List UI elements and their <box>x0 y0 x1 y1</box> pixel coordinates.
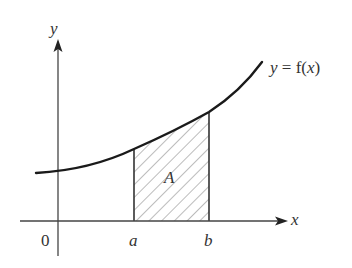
bound-label-b: b <box>204 231 213 250</box>
curve-label-eq: = f( <box>278 58 308 77</box>
origin-label: 0 <box>41 231 50 250</box>
region-label: A <box>163 168 175 187</box>
curve-label: y = f(x) <box>268 58 320 77</box>
curve-label-close: ) <box>315 58 321 77</box>
x-axis-label: x <box>290 210 299 229</box>
y-axis <box>54 39 63 256</box>
curve-label-y: y <box>268 58 278 77</box>
y-axis-label: y <box>48 19 58 38</box>
area-under-curve-diagram: y x 0 a b A y = f(x) <box>0 0 352 268</box>
bound-label-a: a <box>129 231 138 250</box>
